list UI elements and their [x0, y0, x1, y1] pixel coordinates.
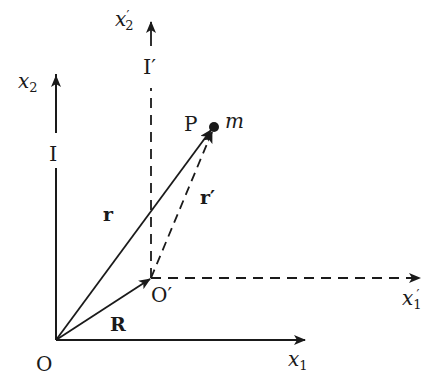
- x1-axis-label: x1: [288, 347, 308, 373]
- x1-prime-axis-label: x1′: [402, 286, 422, 312]
- x2-axis-label: x2: [18, 69, 38, 95]
- frame-I-label: I: [49, 142, 57, 166]
- origin-O-prime-label: O′: [151, 283, 172, 307]
- point-mass-dot: [209, 122, 219, 132]
- point-P-label: P: [184, 112, 197, 136]
- vector-R: [56, 279, 150, 340]
- frame-I-prime-label: I′: [143, 55, 156, 79]
- vector-R-label: R: [110, 313, 126, 335]
- mass-m-label: m: [225, 109, 244, 133]
- vector-r-prime-label: r′: [200, 186, 215, 208]
- origin-O-label: O: [36, 352, 52, 376]
- reference-frames-diagram: x2 I x2′ I′ P m r r′ R O O′ x1 x1′: [0, 0, 431, 381]
- vector-r-label: r: [103, 203, 114, 225]
- vector-r: [56, 130, 211, 340]
- x2-prime-axis-label: x2′: [115, 7, 134, 33]
